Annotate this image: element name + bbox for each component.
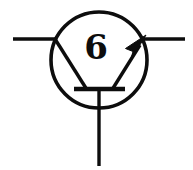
transistor-symbol-svg: 6 <box>0 0 193 170</box>
collector-internal-leg <box>55 39 87 89</box>
emitter-arrow-head-icon <box>126 35 147 61</box>
transistor-symbol-figure: 6 <box>0 0 193 170</box>
device-designator-label: 6 <box>84 27 108 67</box>
